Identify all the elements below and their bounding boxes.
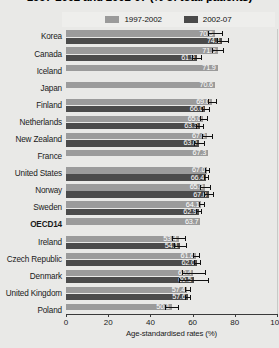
x-tick-label-40: 40 [146, 318, 155, 327]
error-bar-cap [212, 48, 213, 53]
x-axis: Age-standardised rates (%) 020406080100 [66, 314, 277, 346]
legend-item-period1: 1997-2002 [105, 15, 161, 24]
bar-2002-07: 66.4 [66, 174, 206, 180]
category-label-sweden: Sweden [0, 204, 66, 212]
error-bar-cap [192, 55, 193, 60]
error-bar-cap [200, 260, 201, 265]
error-bar-cap [190, 287, 191, 292]
bar-value-label: 63.7 [185, 218, 198, 225]
bar-row: United States67.066.4 [0, 166, 277, 183]
error-bar-cap [204, 141, 205, 146]
error-bar [182, 273, 206, 274]
gridline-100 [277, 29, 278, 314]
error-bar [165, 307, 179, 308]
bar-1997-2002: 67.0 [66, 167, 207, 173]
bar-cell: 60.460.5 [66, 268, 277, 285]
bar-cell: 71.9 [66, 63, 277, 80]
error-bar-cap [186, 243, 187, 248]
error-bar-cap [178, 305, 179, 310]
bar-2002-07: 74.1 [66, 38, 222, 44]
error-bar-cap [165, 305, 166, 310]
bar-1997-2002: 70.5 [66, 30, 215, 36]
bar-1997-2002: 50.1 [66, 304, 172, 310]
category-label-poland: Poland [0, 307, 66, 315]
x-tick-label-80: 80 [230, 318, 239, 327]
bar-2002-07: 54.1 [66, 243, 180, 249]
x-tick-100 [277, 314, 278, 317]
bar-1997-2002: 65.9 [66, 184, 205, 190]
category-label-canada: Canada [0, 51, 66, 59]
error-bar [174, 246, 186, 247]
error-bar-cap [201, 209, 202, 214]
error-bar-cap [207, 116, 208, 121]
bar-row: United Kingdom57.457.6 [0, 285, 277, 302]
bar-1997-2002: 60.4 [66, 270, 193, 276]
bar-1997-2002: 67.3 [66, 150, 208, 156]
legend-swatch-1997-2002-icon [105, 16, 119, 23]
bar-cell: 57.457.6 [66, 285, 277, 302]
bar-cell: 70.574.1 [66, 29, 277, 46]
error-bar-cap [174, 243, 175, 248]
category-label-iceland: Iceland [0, 68, 66, 76]
category-label-oecd14: OECD14 [0, 221, 66, 229]
error-bar-cap [185, 295, 186, 300]
bar-cell: 65.063.3 [66, 114, 277, 131]
x-tick-label-60: 60 [188, 318, 197, 327]
x-tick-60 [193, 314, 194, 317]
error-bar-cap [201, 55, 202, 60]
error-bar-cap [223, 48, 224, 53]
bar-cell: 61.662.0 [66, 251, 277, 268]
error-bar-cap [209, 107, 210, 112]
error-bar [179, 280, 209, 281]
bar-1997-2002: 65.0 [66, 116, 203, 122]
bar-2002-07: 62.9 [66, 209, 199, 215]
bar-1997-2002: 70.6 [66, 82, 215, 88]
bar-cell: 65.967.6 [66, 183, 277, 200]
x-tick-label-100: 100 [270, 318, 279, 327]
chart-root: 1997-2002 and 2002-07 (% of total patien… [0, 0, 279, 348]
bar-value-label: 57.6 [172, 294, 185, 301]
bar-1997-2002: 64.1 [66, 201, 201, 207]
error-bar-cap [204, 175, 205, 180]
bar-2002-07: 61.9 [66, 55, 197, 61]
bar-row: Japan70.6 [0, 80, 277, 97]
error-bar-cap [212, 134, 213, 139]
category-label-finland: Finland [0, 102, 66, 110]
x-tick-40 [150, 314, 151, 317]
error-bar-cap [185, 236, 186, 241]
error-bar [172, 238, 185, 239]
bar-cell: 67.066.4 [66, 166, 277, 183]
x-tick-0 [66, 314, 67, 317]
legend-item-period2: 2002-07 [184, 15, 232, 24]
bar-1997-2002: 53.4 [66, 236, 179, 242]
bar-value-label: 71.9 [202, 64, 215, 71]
error-bar [194, 143, 203, 144]
bar-2002-07: 66.0 [66, 106, 205, 112]
bar-value-label: 62.9 [183, 208, 196, 215]
x-tick-80 [235, 314, 236, 317]
error-bar-cap [208, 278, 209, 283]
error-bar-cap [204, 202, 205, 207]
bar-2002-07: 57.6 [66, 294, 188, 300]
error-bar [208, 33, 222, 34]
bar-2002-07: 62.0 [66, 260, 197, 266]
bar-1997-2002: 63.7 [66, 218, 200, 224]
bar-cell: 67.063.0 [66, 132, 277, 149]
error-bar [204, 194, 212, 195]
bar-rows: Korea70.574.1Canada71.961.9Iceland71.9Ja… [0, 29, 277, 314]
bar-value-label: 66.4 [191, 174, 204, 181]
bar-row: Denmark60.460.5 [0, 268, 277, 285]
bar-row: OECD1463.7 [0, 217, 277, 234]
error-bar-cap [196, 209, 197, 214]
bar-cell: 67.3 [66, 149, 277, 166]
error-bar-cap [194, 141, 195, 146]
error-bar-cap [200, 116, 201, 121]
category-label-czech-republic: Czech Republic [0, 256, 66, 264]
error-bar [192, 58, 200, 59]
error-bar [202, 109, 209, 110]
category-label-korea: Korea [0, 33, 66, 41]
bar-row: France67.3 [0, 149, 277, 166]
bar-cell: 71.961.9 [66, 46, 277, 63]
error-bar-cap [196, 124, 197, 129]
error-bar-cap [202, 107, 203, 112]
